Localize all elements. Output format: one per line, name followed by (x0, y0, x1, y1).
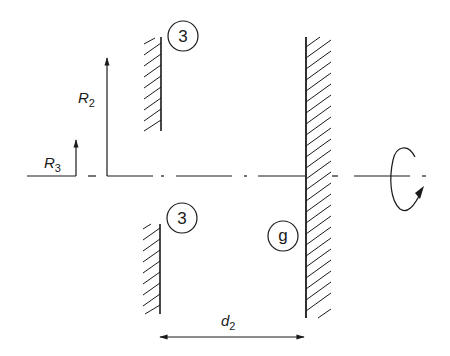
wall-right (306, 37, 331, 318)
diagram-canvas: R3 R2 3 (0, 0, 450, 356)
wall-upper-left (144, 37, 161, 131)
hatching-icon (306, 37, 331, 318)
hatching-icon (144, 38, 161, 131)
svg-text:3: 3 (177, 209, 186, 228)
r2-label: R2 (78, 89, 95, 109)
rotation-arrow-icon (391, 148, 424, 211)
svg-text:g: g (278, 226, 287, 245)
wall-lower-left (143, 224, 160, 314)
d2-label: d2 (221, 312, 235, 332)
r3-dimension: R3 (44, 140, 76, 176)
hatching-icon (143, 224, 160, 314)
d2-dimension: d2 (160, 312, 304, 337)
r3-label: R3 (44, 154, 61, 174)
label-circle-3-bottom: 3 (167, 203, 197, 233)
svg-text:3: 3 (178, 27, 187, 46)
r2-dimension: R2 (78, 58, 107, 176)
label-circle-g: g (268, 221, 298, 251)
label-circle-3-top: 3 (168, 21, 198, 51)
